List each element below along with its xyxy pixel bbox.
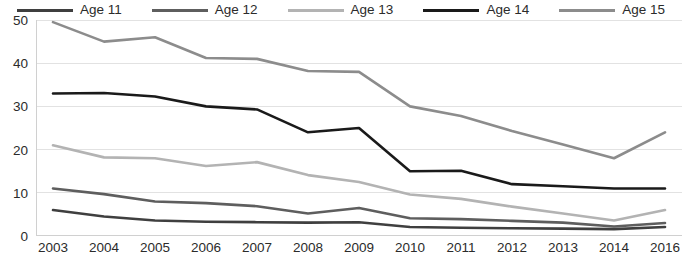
- y-axis-tick-label: 30: [0, 99, 28, 114]
- legend-item-age-13[interactable]: Age 13: [288, 3, 394, 17]
- y-axis-tick-label: 40: [0, 56, 28, 71]
- series-line-age-11: [53, 210, 665, 229]
- chart-legend: Age 11Age 12Age 13Age 14Age 15: [0, 0, 682, 20]
- x-axis-tick-label: 2016: [650, 240, 680, 255]
- legend-swatch-icon: [17, 9, 73, 12]
- series-line-age-14: [53, 93, 665, 188]
- legend-item-age-12[interactable]: Age 12: [152, 3, 258, 17]
- x-axis-tick-label: 2009: [344, 240, 374, 255]
- y-axis-tick-label: 20: [0, 142, 28, 157]
- x-axis-tick-label: 2014: [599, 240, 629, 255]
- line-chart: Age 11Age 12Age 13Age 14Age 15 504030201…: [0, 0, 682, 268]
- plot-area: [36, 20, 682, 236]
- legend-item-age-11[interactable]: Age 11: [17, 3, 122, 17]
- legend-label: Age 12: [215, 3, 258, 17]
- x-axis-tick-label: 2004: [89, 240, 119, 255]
- legend-label: Age 14: [486, 3, 529, 17]
- x-axis-tick-label: 2006: [191, 240, 221, 255]
- legend-swatch-icon: [288, 9, 344, 12]
- legend-label: Age 15: [622, 3, 665, 17]
- x-axis-tick-label: 2013: [548, 240, 578, 255]
- x-axis-tick-label: 2007: [242, 240, 272, 255]
- legend-label: Age 11: [80, 3, 122, 17]
- x-axis-tick-label: 2010: [395, 240, 425, 255]
- legend-item-age-15[interactable]: Age 15: [559, 3, 665, 17]
- series-line-age-15: [53, 22, 665, 158]
- plot-svg: [36, 20, 682, 236]
- y-axis-tick-label: 0: [0, 229, 28, 244]
- legend-swatch-icon: [559, 9, 615, 12]
- legend-swatch-icon: [152, 9, 208, 12]
- legend-swatch-icon: [423, 9, 479, 12]
- y-axis-labels: 50403020100: [0, 20, 30, 236]
- x-axis-tick-label: 2008: [293, 240, 323, 255]
- x-axis-tick-label: 2011: [446, 240, 475, 255]
- legend-item-age-14[interactable]: Age 14: [423, 3, 529, 17]
- x-axis-tick-label: 2012: [497, 240, 527, 255]
- legend-label: Age 13: [351, 3, 394, 17]
- y-axis-tick-label: 50: [0, 13, 28, 28]
- y-axis-tick-label: 10: [0, 185, 28, 200]
- x-axis-labels: 2003200420052006200720082009201020112012…: [36, 240, 682, 262]
- x-axis-tick-label: 2005: [140, 240, 170, 255]
- x-axis-tick-label: 2003: [38, 240, 68, 255]
